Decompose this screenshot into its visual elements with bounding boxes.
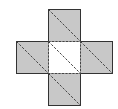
cross-net-diagram <box>0 0 118 109</box>
